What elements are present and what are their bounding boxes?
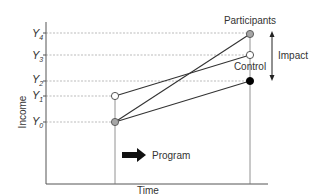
program-label: Program	[152, 150, 190, 161]
control-label: Control	[234, 61, 266, 72]
participants-line	[115, 34, 250, 122]
y3-label: Y3	[32, 49, 43, 63]
y-axis-title: Income	[17, 95, 28, 128]
control-baseline-point	[111, 92, 118, 99]
participants-label: Participants	[224, 15, 276, 26]
x-axis-title: Time	[137, 185, 159, 195]
impact-label: Impact	[278, 50, 308, 61]
y0-label: Y0	[32, 115, 43, 129]
control-line	[115, 55, 250, 96]
participants-baseline-point	[111, 118, 118, 125]
counterfactual-endline-point	[246, 77, 253, 84]
participants-endline-point	[246, 30, 253, 37]
program-arrow-icon	[122, 148, 146, 162]
control-endline-point	[246, 51, 253, 58]
y1-label: Y1	[32, 89, 43, 103]
counterfactual-line	[115, 81, 250, 122]
impact-evaluation-diagram: Y4 Y3 Y2 Y1 Y0 Income Time Participants …	[0, 0, 309, 195]
y4-label: Y4	[32, 27, 43, 41]
y2-label: Y2	[32, 73, 43, 87]
impact-arrow-icon	[270, 31, 275, 81]
